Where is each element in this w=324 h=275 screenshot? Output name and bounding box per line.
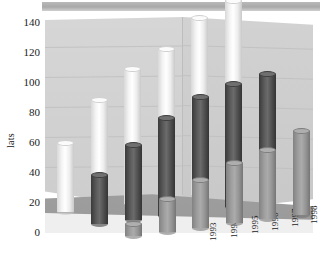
bar-front-row-1993 (125, 224, 142, 236)
y-tick-label-40: 40 (2, 167, 40, 177)
y-tick-label-60: 60 (2, 137, 40, 147)
bar-top (57, 140, 74, 146)
bar-front-row-1994 (159, 199, 176, 232)
bar-body (293, 131, 310, 215)
y-axis: lats 140 120 100 80 60 40 20 0 (0, 17, 45, 233)
bar-top (259, 71, 276, 77)
bar-top (225, 0, 242, 4)
bar-body (259, 150, 276, 219)
y-tick-label-80: 80 (2, 107, 40, 117)
bar-mid-row-1994 (125, 145, 142, 220)
bar-top (125, 142, 142, 148)
bar-body (159, 199, 176, 232)
bar-top (91, 172, 108, 178)
bar-body (192, 180, 209, 228)
y-tick-label-140: 140 (2, 17, 40, 27)
bar-top (293, 128, 310, 134)
y-tick-label-0: 0 (2, 227, 40, 237)
bar-body (91, 175, 108, 225)
bar-top (91, 97, 108, 103)
bar-front-row-1996 (226, 163, 243, 223)
y-tick-label-100: 100 (2, 77, 40, 87)
wall-seam (182, 17, 183, 195)
bar-top (125, 221, 142, 227)
bar-body (57, 143, 74, 212)
plot-area (45, 17, 313, 233)
bar-front-row-1998 (293, 131, 310, 215)
y-tick-label-20: 20 (2, 197, 40, 207)
bar-mid-row-1993 (91, 175, 108, 225)
chart-3d-bar: lats 140 120 100 80 60 40 20 0 (0, 0, 324, 275)
bar-top (159, 196, 176, 202)
top-banner (42, 2, 320, 11)
bar-back-row-1993 (57, 143, 74, 212)
bar-body (125, 145, 142, 220)
bar-body (226, 163, 243, 223)
bar-front-row-1997 (259, 150, 276, 219)
bar-front-row-1995 (192, 180, 209, 228)
bar-top (192, 177, 209, 183)
y-tick-label-120: 120 (2, 47, 40, 57)
bar-top (124, 66, 141, 72)
